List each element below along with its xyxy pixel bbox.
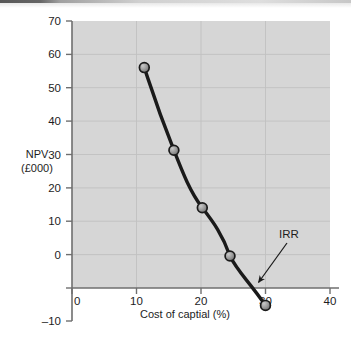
npv-profile-chart: 70 60 50 40 30 20 10 0 –10 0 10 20 30 40… xyxy=(0,0,351,343)
y-axis-label-line1: NPV xyxy=(26,148,49,160)
x-tick-label-20: 20 xyxy=(195,295,208,307)
y-tick-label-0: 0 xyxy=(55,249,61,261)
x-tick-label-0: 0 xyxy=(74,295,80,307)
y-tick-label-minus-10: –10 xyxy=(42,315,61,327)
x-tick-label-40: 40 xyxy=(324,295,337,307)
irr-annotation-label: IRR xyxy=(279,228,299,240)
data-point-marker xyxy=(169,145,179,155)
data-point-marker xyxy=(197,203,207,213)
y-tick-label-50: 50 xyxy=(48,82,61,94)
x-axis-label: Cost of captial (%) xyxy=(140,308,230,320)
y-axis-label-line2: (£000) xyxy=(21,162,53,174)
chart-canvas: 70 60 50 40 30 20 10 0 –10 0 10 20 30 40… xyxy=(0,0,351,343)
x-axis-ticks xyxy=(72,288,330,294)
y-tick-label-70: 70 xyxy=(48,15,61,27)
x-tick-label-10: 10 xyxy=(130,295,143,307)
data-point-marker xyxy=(139,63,149,73)
y-tick-label-40: 40 xyxy=(48,115,61,127)
y-tick-label-10: 10 xyxy=(48,215,61,227)
data-point-marker xyxy=(225,251,235,261)
y-axis-ticks xyxy=(66,21,72,321)
y-tick-label-60: 60 xyxy=(48,48,61,60)
y-tick-label-20: 20 xyxy=(48,182,61,194)
y-tick-label-30: 30 xyxy=(48,149,61,161)
data-point-marker xyxy=(261,301,271,311)
